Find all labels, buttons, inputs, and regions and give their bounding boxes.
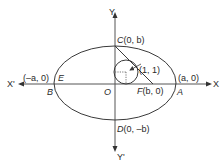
label-b: B [47, 87, 53, 97]
label-e-coord: (–a, 0) [23, 73, 49, 83]
label-x: X [213, 79, 219, 89]
label-a-coord: (a, 0) [178, 73, 199, 83]
label-f: F(b, 0) [137, 86, 164, 96]
x-axis-arrow-right-icon [206, 82, 212, 87]
label-y-prime: Y' [117, 152, 125, 162]
label-origin: O [104, 87, 111, 97]
label-e: E [58, 73, 65, 83]
label-y: Y [109, 7, 115, 17]
diagram-canvas: Y Y' X X' C(0, b) D(0, –b) F(b, 0) (1, 1… [0, 0, 223, 168]
ellipse-diagram: Y Y' X X' C(0, b) D(0, –b) F(b, 0) (1, 1… [0, 0, 223, 168]
label-d: D(0, –b) [117, 124, 150, 134]
label-x-prime: X' [7, 79, 15, 89]
label-a: A [176, 87, 183, 97]
label-center-coord: (1, 1) [139, 65, 160, 75]
label-c: C(0, b) [117, 35, 145, 45]
